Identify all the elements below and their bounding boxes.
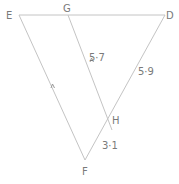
length-DH: 5·9 — [138, 66, 154, 77]
label-G: G — [63, 3, 71, 14]
label-E: E — [6, 10, 12, 21]
length-GH: 5·7 — [89, 52, 105, 63]
length-HF: 3·1 — [102, 140, 118, 151]
edge-EF — [19, 15, 85, 160]
label-F: F — [82, 166, 88, 177]
edge-GH — [68, 15, 112, 130]
parallel-arrow-icon-EF — [51, 84, 55, 88]
edge-DF — [85, 15, 165, 160]
triangle-diagram: E G D H F 5·7 5·9 3·1 — [0, 0, 179, 184]
label-H: H — [112, 115, 120, 126]
label-D: D — [166, 10, 174, 21]
